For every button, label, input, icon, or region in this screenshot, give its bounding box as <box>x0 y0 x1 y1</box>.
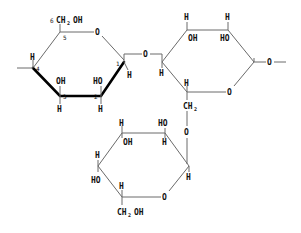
carbon-number: 1 <box>116 60 120 67</box>
carbon-number: 5 <box>63 34 67 41</box>
ring-2: H OH H HO H O O H CH 2 <box>159 13 286 112</box>
c1-h-label: H <box>127 71 132 80</box>
carbon-number: 6 <box>50 17 54 24</box>
ch2-subscript: 2 <box>194 106 197 112</box>
ch2-label: CH <box>183 102 193 111</box>
h-label: H <box>184 13 189 22</box>
c6-ch2-label: CH <box>117 208 127 217</box>
ho-label: HO <box>158 119 168 128</box>
carbon-number: 3 <box>63 93 67 100</box>
ring-oxygen: O <box>95 28 100 37</box>
ring-oxygen: O <box>162 193 167 202</box>
c6-oh-label: OH <box>134 208 144 217</box>
carbon-number: 2 <box>94 93 98 100</box>
oligosaccharide-diagram: 6 CH 2 OH 5 O H 4 OH 3 H HO 2 H 1 H O <box>0 0 301 233</box>
ho-label: HO <box>91 176 101 185</box>
ring-3: H OH HO H H HO H O H CH 2 OH <box>91 119 191 218</box>
c3-oh-label: OH <box>56 77 66 86</box>
c6-subscript: 2 <box>128 212 131 218</box>
h-label: H <box>162 138 167 147</box>
ring-1: 6 CH 2 OH 5 O H 4 OH 3 H HO 2 H 1 H <box>17 16 142 114</box>
h-label: H <box>225 13 230 22</box>
c6-ch2-label: CH <box>56 16 66 25</box>
ho-label: HO <box>220 34 230 43</box>
oh-label: OH <box>123 138 133 147</box>
glycosidic-oxygen: O <box>143 50 148 59</box>
h-label: H <box>159 69 164 78</box>
h-label: H <box>95 151 100 160</box>
glycosidic-oxygen: O <box>267 58 272 67</box>
c2-h-label: H <box>98 105 103 114</box>
h-label: H <box>119 182 124 191</box>
h-label: H <box>119 119 124 128</box>
h-label: H <box>184 79 189 88</box>
c6-subscript: 2 <box>67 20 70 26</box>
carbon-number: 4 <box>36 65 40 72</box>
h-label: H <box>186 173 191 182</box>
ring-oxygen: O <box>227 88 232 97</box>
c4-h-label: H <box>30 53 35 62</box>
c3-h-label: H <box>57 105 62 114</box>
c6-oh-label: OH <box>73 16 83 25</box>
link-oxygen: O <box>184 128 189 137</box>
c2-ho-label: HO <box>93 77 103 86</box>
oh-label: OH <box>188 34 198 43</box>
